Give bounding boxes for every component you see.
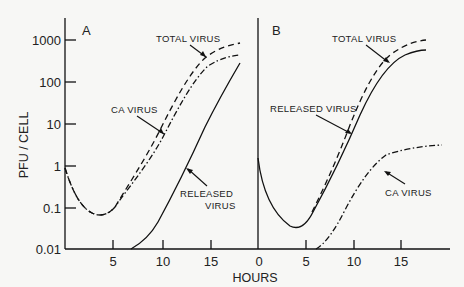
b-ca-virus-label: CA VIRUS bbox=[385, 187, 432, 198]
panel-b-curves bbox=[258, 40, 442, 249]
b-released-virus-line bbox=[258, 50, 426, 227]
panel-a-label: A bbox=[82, 23, 91, 38]
panel-b-annotations: TOTAL VIRUS RELEASED VIRUS CA VIRUS bbox=[270, 33, 432, 198]
y-axis-label: PFU / CELL bbox=[17, 112, 31, 179]
a-ca-virus-label: CA VIRUS bbox=[111, 104, 158, 115]
svg-text:10: 10 bbox=[347, 254, 361, 269]
b-total-virus-label: TOTAL VIRUS bbox=[332, 33, 396, 44]
panel-a-annotations: TOTAL VIRUS CA VIRUS RELEASED VIRUS bbox=[111, 33, 236, 211]
svg-text:10: 10 bbox=[156, 254, 170, 269]
svg-text:0.01: 0.01 bbox=[36, 242, 61, 257]
a-total-virus-label: TOTAL VIRUS bbox=[156, 33, 220, 44]
panel-a-curves bbox=[65, 43, 240, 249]
a-released-virus-label-1: RELEASED bbox=[180, 188, 233, 199]
svg-text:15: 15 bbox=[394, 254, 408, 269]
a-released-virus-label-2: VIRUS bbox=[205, 200, 236, 211]
y-tick-labels: 1000 100 10 1 0.1 0.01 bbox=[32, 33, 61, 257]
a-released-virus-line bbox=[131, 63, 240, 249]
x-axis-label: HOURS bbox=[232, 271, 277, 285]
panel-b-x-tick-labels: 0 5 10 15 bbox=[255, 254, 408, 269]
svg-text:10: 10 bbox=[47, 117, 61, 132]
svg-text:5: 5 bbox=[109, 254, 116, 269]
svg-text:0.1: 0.1 bbox=[43, 201, 61, 216]
chart-figure: PFU / CELL 1000 100 10 1 0.1 0.01 5 10 1… bbox=[0, 0, 464, 287]
b-released-virus-label: RELEASED VIRUS bbox=[270, 103, 357, 114]
svg-text:0: 0 bbox=[255, 254, 262, 269]
svg-text:1000: 1000 bbox=[32, 33, 61, 48]
svg-text:1: 1 bbox=[54, 159, 61, 174]
panel-b-label: B bbox=[272, 23, 281, 38]
panel-a-x-tick-labels: 5 10 15 bbox=[109, 254, 218, 269]
svg-text:100: 100 bbox=[39, 75, 61, 90]
svg-text:15: 15 bbox=[204, 254, 218, 269]
svg-text:5: 5 bbox=[302, 254, 309, 269]
